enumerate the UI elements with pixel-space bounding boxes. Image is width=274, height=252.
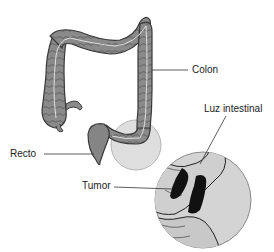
colon-illustration: [42, 17, 152, 164]
colon-diagram: [0, 0, 274, 252]
label-luz-intestinal: Luz intestinal: [204, 103, 262, 115]
highlight-circle: [111, 120, 161, 170]
label-recto: Recto: [10, 148, 36, 160]
label-tumor: Tumor: [82, 180, 111, 192]
label-colon: Colon: [192, 64, 218, 76]
